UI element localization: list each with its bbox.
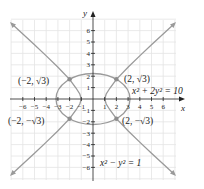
svg-text:−4: −4 xyxy=(83,141,91,149)
ellipse-equation-label: x² + 2y² = 10 xyxy=(131,86,183,96)
svg-text:3: 3 xyxy=(87,61,91,69)
svg-text:−2: −2 xyxy=(66,103,74,111)
svg-text:−6: −6 xyxy=(19,103,27,111)
point-label-bottom-left: (−2, −√3) xyxy=(8,116,45,127)
point-label-top-left: (−2, √3) xyxy=(18,76,49,87)
graph: −6 −5 −4 −3 −2 −1 1 2 3 4 5 6 6 5 4 3 2 … xyxy=(0,0,204,189)
svg-text:−1: −1 xyxy=(83,107,91,115)
svg-text:2: 2 xyxy=(87,73,91,81)
svg-text:4: 4 xyxy=(87,50,91,58)
point-2-negsqrt3 xyxy=(114,117,118,121)
svg-text:1: 1 xyxy=(87,84,91,92)
svg-text:−5: −5 xyxy=(31,103,39,111)
svg-text:−4: −4 xyxy=(42,103,50,111)
y-axis-label: y xyxy=(82,8,87,18)
x-tick-labels: −6 −5 −4 −3 −2 −1 1 2 3 4 5 6 xyxy=(19,103,165,111)
svg-text:6: 6 xyxy=(87,27,91,35)
svg-text:−2: −2 xyxy=(83,118,91,126)
x-axis-label: x xyxy=(180,103,185,113)
svg-text:2: 2 xyxy=(115,103,119,111)
point-2-sqrt3 xyxy=(114,77,118,81)
point-neg2-negsqrt3 xyxy=(67,117,71,121)
x-axis-arrow-icon xyxy=(179,97,185,102)
svg-text:5: 5 xyxy=(87,38,91,46)
svg-text:6: 6 xyxy=(161,103,165,111)
svg-text:4: 4 xyxy=(138,103,142,111)
svg-text:−3: −3 xyxy=(83,130,91,138)
point-label-bottom-right: (2, −√3) xyxy=(122,116,153,127)
y-axis-arrow-icon xyxy=(91,11,96,17)
svg-text:−6: −6 xyxy=(83,164,91,172)
svg-text:3: 3 xyxy=(126,103,130,111)
svg-text:−5: −5 xyxy=(83,152,91,160)
svg-text:1: 1 xyxy=(103,103,107,111)
svg-text:−3: −3 xyxy=(54,103,62,111)
svg-text:5: 5 xyxy=(150,103,154,111)
hyperbola-equation-label: x² − y² = 1 xyxy=(99,158,141,168)
point-neg2-sqrt3 xyxy=(67,77,71,81)
point-label-top-right: (2, √3) xyxy=(124,74,150,85)
